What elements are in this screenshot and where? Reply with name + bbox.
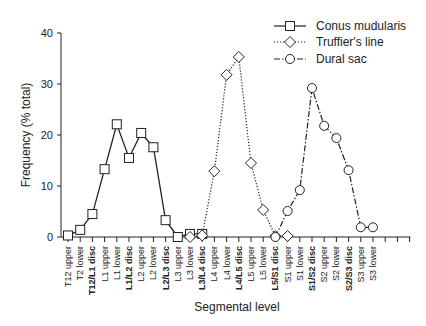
x-tick-label: L4 lower xyxy=(222,246,232,280)
series-conus-mudularis xyxy=(64,120,207,242)
data-point-truffier-s-line xyxy=(209,166,220,177)
series-line-truffier-s-line xyxy=(190,57,288,237)
x-tick-label: S1/S2 disc xyxy=(307,246,317,291)
x-tick-label: L3/L4 disc xyxy=(197,246,207,290)
x-tick-label: S3 lower xyxy=(368,246,378,281)
legend-label: Dural sac xyxy=(316,52,367,66)
x-tick-label: L5 upper xyxy=(246,246,256,282)
data-point-dural-sac xyxy=(295,186,304,195)
series-dural-sac xyxy=(271,84,378,242)
data-point-dural-sac xyxy=(356,223,365,232)
y-axis-ticks: 010203040 xyxy=(41,27,61,243)
data-point-dural-sac xyxy=(271,233,280,242)
data-point-conus-mudularis xyxy=(173,233,182,242)
x-tick-label: L4/L5 disc xyxy=(234,246,244,290)
x-tick-label: S1 upper xyxy=(283,246,293,283)
data-point-conus-mudularis xyxy=(125,153,134,162)
y-tick-label: 30 xyxy=(41,78,53,90)
y-tick-label: 0 xyxy=(47,231,53,243)
data-point-truffier-s-line xyxy=(221,69,232,80)
legend-item-truffier-s-line: Truffier's line xyxy=(274,35,384,49)
data-point-dural-sac xyxy=(344,166,353,175)
x-axis-ticks: T12 upperT2 lowerT12/L1 discL1 upperL1 l… xyxy=(63,237,410,295)
x-axis-title: Segmental level xyxy=(194,300,279,314)
y-tick-label: 20 xyxy=(41,129,53,141)
legend-item-dural-sac: Dural sac xyxy=(274,52,367,66)
data-point-conus-mudularis xyxy=(76,225,85,234)
x-tick-label: T12/L1 disc xyxy=(87,246,97,295)
series-truffier-s-line xyxy=(185,51,294,242)
data-point-conus-mudularis xyxy=(161,216,170,225)
x-tick-label: S2 upper xyxy=(319,246,329,283)
legend-marker-circle-icon xyxy=(286,55,295,64)
data-point-dural-sac xyxy=(369,223,378,232)
x-tick-label: L2 upper xyxy=(136,246,146,282)
x-tick-label: L3 upper xyxy=(173,246,183,282)
data-point-dural-sac xyxy=(308,84,317,93)
data-point-conus-mudularis xyxy=(64,231,73,240)
legend-label: Truffier's line xyxy=(316,35,384,49)
x-tick-label: L3 lower xyxy=(185,246,195,280)
x-tick-label: S2/S3 disc xyxy=(344,246,354,291)
x-tick-label: S1 lower xyxy=(295,246,305,281)
data-point-conus-mudularis xyxy=(112,120,121,129)
x-tick-label: T12 upper xyxy=(63,246,73,287)
legend: Conus mudularisTruffier's lineDural sac xyxy=(274,19,406,66)
data-point-truffier-s-line xyxy=(282,230,293,241)
y-axis-title: Frequency (% total) xyxy=(19,83,33,188)
data-point-truffier-s-line xyxy=(258,204,269,215)
data-point-conus-mudularis xyxy=(100,165,109,174)
x-tick-label: L5 lower xyxy=(258,246,268,280)
x-tick-label: L1 upper xyxy=(100,246,110,282)
series-line-conus-mudularis xyxy=(68,124,202,237)
x-tick-label: L5/S1 disc xyxy=(270,246,280,291)
legend-marker-square-icon xyxy=(286,22,295,31)
x-tick-label: L4 upper xyxy=(209,246,219,282)
x-tick-label: S2 lower xyxy=(331,246,341,281)
legend-item-conus-mudularis: Conus mudularis xyxy=(274,19,406,33)
data-point-truffier-s-line xyxy=(233,51,244,62)
y-tick-label: 40 xyxy=(41,27,53,39)
data-point-dural-sac xyxy=(332,134,341,143)
x-tick-label: L2 lower xyxy=(148,246,158,280)
series-layer xyxy=(64,51,378,242)
data-point-truffier-s-line xyxy=(246,158,257,169)
data-point-conus-mudularis xyxy=(149,143,158,152)
frequency-line-chart: T12 upperT2 lowerT12/L1 discL1 upperL1 l… xyxy=(0,0,426,326)
x-tick-label: S3 upper xyxy=(356,246,366,283)
x-tick-label: L1/L2 disc xyxy=(124,246,134,290)
data-point-conus-mudularis xyxy=(88,210,97,219)
x-tick-label: L2/L3 disc xyxy=(161,246,171,290)
data-point-dural-sac xyxy=(283,206,292,215)
data-point-dural-sac xyxy=(320,121,329,130)
legend-marker-diamond-icon xyxy=(285,37,296,48)
x-tick-label: T2 lower xyxy=(75,246,85,281)
y-tick-label: 10 xyxy=(41,180,53,192)
data-point-conus-mudularis xyxy=(137,128,146,137)
legend-label: Conus mudularis xyxy=(316,19,406,33)
x-tick-label: L1 lower xyxy=(112,246,122,280)
